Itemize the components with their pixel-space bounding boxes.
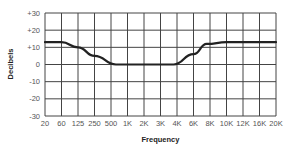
x-tick-label: 2K xyxy=(139,119,148,128)
y-axis-ticks: +30+20+100-10-20-30 xyxy=(27,9,40,121)
x-tick-label: 8K xyxy=(205,119,214,128)
x-tick-label: 12K xyxy=(236,119,249,128)
x-axis-ticks: 20601252505001K2K3K4K6K8K10K12K16K20K xyxy=(41,119,283,128)
x-tick-label: 6K xyxy=(189,119,198,128)
y-tick-label: 0 xyxy=(36,60,40,69)
x-tick-label: 60 xyxy=(57,119,65,128)
x-tick-label: 10K xyxy=(220,119,233,128)
x-tick-label: 20K xyxy=(269,119,282,128)
y-tick-label: -20 xyxy=(29,94,40,103)
x-tick-label: 500 xyxy=(105,119,118,128)
eq-chart: 20601252505001K2K3K4K6K8K10K12K16K20K +3… xyxy=(0,0,291,149)
x-tick-label: 1K xyxy=(123,119,132,128)
y-tick-label: +20 xyxy=(27,26,40,35)
x-tick-label: 20 xyxy=(41,119,49,128)
y-tick-label: +10 xyxy=(27,43,40,52)
x-tick-label: 4K xyxy=(172,119,181,128)
x-axis-title: Frequency xyxy=(142,135,181,144)
x-tick-label: 3K xyxy=(156,119,165,128)
y-tick-label: -10 xyxy=(29,77,40,86)
y-tick-label: -30 xyxy=(29,112,40,121)
x-tick-label: 250 xyxy=(88,119,101,128)
x-tick-label: 125 xyxy=(72,119,85,128)
y-tick-label: +30 xyxy=(27,9,40,18)
y-axis-title: Decibels xyxy=(6,49,15,80)
x-tick-label: 16K xyxy=(253,119,266,128)
